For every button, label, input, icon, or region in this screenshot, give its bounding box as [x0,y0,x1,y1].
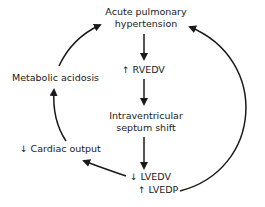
septum-line2: septum shift [104,122,188,134]
node-septum-shift: Intraventricular septum shift [104,110,188,134]
septum-line1: Intraventricular [104,110,188,122]
node-lvedv: ↓LVEDV [130,171,171,183]
node-lvedp: ↑LVEDP [138,184,178,196]
arrow-lvedp-to-aph [180,27,246,191]
increase-arrow-icon: ↑ [122,65,130,75]
arrow-acidosis-to-aph [59,25,100,66]
aph-line1: Acute pulmonary [104,6,188,18]
arrow-cardiac-output-to-acidosis [54,90,66,141]
node-rvedv: ↑RVEDV [122,64,165,76]
decrease-arrow-icon: ↓ [20,144,28,154]
aph-line2: hypertension [104,18,188,30]
metabolic-acidosis-label: Metabolic acidosis [12,72,99,83]
lvedp-label: LVEDP [149,184,179,195]
lvedv-label: LVEDV [141,171,171,182]
arrow-lvedv-to-cardiac-output [84,161,126,176]
node-metabolic-acidosis: Metabolic acidosis [12,72,99,84]
node-cardiac-output: ↓Cardiac output [20,143,101,155]
node-acute-pulmonary-hypertension: Acute pulmonary hypertension [104,6,188,30]
cardiac-output-label: Cardiac output [31,143,101,154]
increase-arrow-icon: ↑ [138,185,146,195]
rvedv-label: RVEDV [133,64,165,75]
decrease-arrow-icon: ↓ [130,172,138,182]
